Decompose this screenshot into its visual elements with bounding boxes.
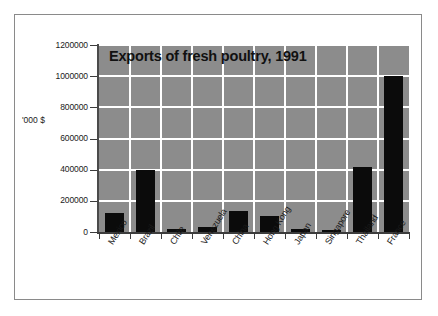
x-tick-label-thailand: Thailand xyxy=(354,213,380,246)
x-tick-label-brazil: Brazil xyxy=(137,223,157,246)
x-tick-label-france: France xyxy=(385,218,408,246)
x-tick-label-singapore: Singapore xyxy=(323,208,352,247)
x-tick-label-chile: Chile xyxy=(168,224,187,246)
x-tick-label-mexico: Mexico xyxy=(106,218,129,246)
bar-chart: 020000040000060000080000010000001200000 … xyxy=(0,0,438,316)
page-background: 020000040000060000080000010000001200000 … xyxy=(0,0,438,316)
x-tick-label-china: China xyxy=(230,222,250,246)
x-tick-label-japan: Japan xyxy=(292,221,313,246)
x-tick-label-hong-kong: Hong Kong xyxy=(261,204,292,246)
chart-title: Exports of fresh poultry, 1991 xyxy=(109,48,307,64)
x-tick-label-venezuela: Venezuela xyxy=(199,207,229,246)
